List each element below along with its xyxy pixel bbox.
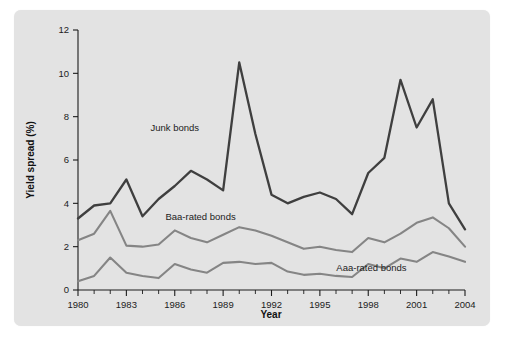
series-label-junk-bonds: Junk bonds [150, 122, 199, 133]
y-axis-ticks: 024681012 [58, 24, 78, 295]
y-tick-label: 12 [58, 24, 69, 35]
y-tick-label: 8 [64, 111, 69, 122]
x-axis-title: Year [260, 309, 281, 320]
axes-group [78, 30, 465, 290]
x-tick-label: 1998 [358, 299, 379, 310]
y-tick-label: 6 [64, 154, 69, 165]
data-series-group [78, 63, 465, 282]
y-tick-label: 10 [58, 68, 69, 79]
series-line-junk-bonds [78, 63, 465, 230]
y-tick-label: 2 [64, 241, 69, 252]
x-axis-ticks: 198019831986198919921995199820012004 [67, 290, 475, 310]
x-tick-label: 1983 [116, 299, 137, 310]
x-tick-label: 2001 [406, 299, 427, 310]
x-tick-label: 1980 [67, 299, 88, 310]
x-tick-label: 1995 [309, 299, 330, 310]
yield-spread-line-chart: 024681012 198019831986198919921995199820… [14, 10, 490, 326]
x-tick-label: 1989 [213, 299, 234, 310]
figure-container: 024681012 198019831986198919921995199820… [0, 0, 516, 345]
series-label-aaa-rated-bonds: Aaa-rated bonds [336, 262, 406, 273]
chart-panel: 024681012 198019831986198919921995199820… [14, 10, 490, 326]
y-tick-label: 0 [64, 284, 69, 295]
series-label-baa-rated-bonds: Baa-rated bonds [165, 211, 235, 222]
series-line-baa-rated-bonds [78, 211, 465, 252]
x-tick-label: 1986 [164, 299, 185, 310]
series-label-group: Junk bondsBaa-rated bondsAaa-rated bonds [150, 122, 406, 273]
y-axis-title: Yield spread (%) [25, 121, 36, 198]
y-tick-label: 4 [64, 198, 69, 209]
x-tick-label: 2004 [454, 299, 475, 310]
series-line-aaa-rated-bonds [78, 252, 465, 281]
